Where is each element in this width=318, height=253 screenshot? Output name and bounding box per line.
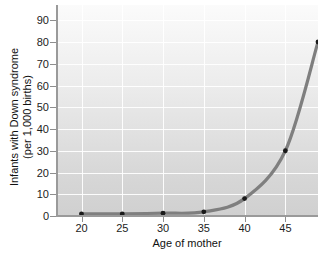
y-axis-tick-label: 30 — [37, 146, 49, 157]
x-axis-line — [56, 215, 318, 217]
y-axis-tick-mark — [50, 86, 56, 87]
y-axis-tick-label: 20 — [37, 168, 49, 179]
y-axis-tick-mark — [50, 107, 56, 108]
data-point-marker — [242, 196, 247, 201]
y-axis-tick-mark — [50, 64, 56, 65]
data-point-markers — [79, 40, 318, 216]
x-axis-tick-label: 30 — [151, 223, 175, 234]
y-axis-title: Infants with Down syndrome (per 1,000 bi… — [8, 17, 34, 217]
plot-area — [57, 5, 318, 216]
x-axis-tick-label: 45 — [273, 223, 297, 234]
y-axis-tick-label: 50 — [37, 102, 49, 113]
y-axis-line — [56, 5, 58, 217]
y-axis-tick-label: 90 — [37, 15, 49, 26]
y-axis-tick-label: 40 — [37, 124, 49, 135]
y-axis-tick-mark — [50, 194, 56, 195]
chart-container: 0102030405060708090 202530354045 Infants… — [0, 0, 318, 253]
y-axis-title-line-1: Infants with Down syndrome — [8, 48, 20, 186]
data-point-marker — [201, 209, 206, 214]
y-axis-tick-mark — [50, 151, 56, 152]
y-axis-tick-label: 60 — [37, 81, 49, 92]
x-axis-tick-label: 25 — [110, 223, 134, 234]
y-axis-tick-mark — [50, 129, 56, 130]
x-axis-title: Age of mother — [56, 237, 318, 249]
y-axis-tick-mark — [50, 42, 56, 43]
data-line — [81, 42, 318, 214]
y-axis-tick-mark — [50, 20, 56, 21]
data-point-marker — [283, 148, 288, 153]
y-axis-tick-label: 70 — [37, 59, 49, 70]
x-axis-tick-label: 40 — [233, 223, 257, 234]
y-axis-tick-mark — [50, 216, 56, 217]
x-axis-tick-label: 35 — [192, 223, 216, 234]
data-curve-svg — [57, 5, 318, 216]
y-axis-tick-label: 80 — [37, 37, 49, 48]
y-axis-tick-label: 10 — [37, 189, 49, 200]
y-axis-tick-label: 0 — [43, 211, 49, 222]
x-axis-tick-label: 20 — [70, 223, 94, 234]
y-axis-title-line-2: (per 1,000 births) — [21, 17, 34, 217]
y-axis-tick-mark — [50, 173, 56, 174]
